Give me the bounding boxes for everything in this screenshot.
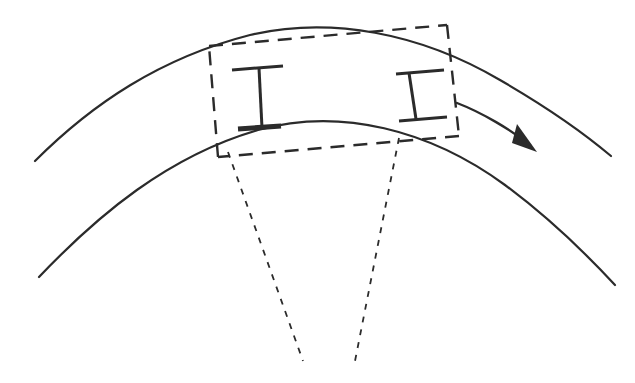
direction-arrow-icon xyxy=(457,103,537,152)
radial-construction-lines xyxy=(228,138,399,361)
right-caliper-top-cap xyxy=(396,70,444,74)
right-caliper-stem xyxy=(409,73,416,119)
left-caliper-bottom-flange xyxy=(238,126,281,129)
diagram-root xyxy=(0,0,635,383)
dashed-box-bottom-edge xyxy=(218,136,459,157)
right-thickness-caliper xyxy=(396,70,447,121)
direction-arrow-head xyxy=(512,124,537,152)
left-caliper-stem xyxy=(259,68,262,128)
left-caliper-top-cap xyxy=(232,66,283,70)
left-thickness-caliper xyxy=(232,66,283,129)
right-caliper-bottom-cap xyxy=(399,117,447,121)
radial-line-right xyxy=(355,138,399,361)
dashed-box-right-edge xyxy=(447,25,459,136)
curved-segment-diagram xyxy=(0,0,635,383)
radial-line-left xyxy=(228,152,303,361)
dashed-box-left-edge xyxy=(209,46,218,157)
